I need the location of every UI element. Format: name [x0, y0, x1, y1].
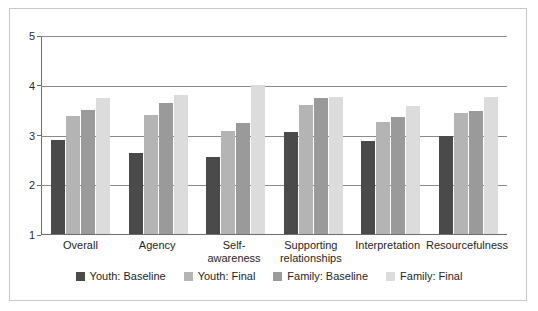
bar — [299, 105, 313, 234]
legend-swatch — [273, 272, 282, 281]
legend-item: Family: Final — [386, 271, 462, 282]
y-tick-label: 2 — [29, 180, 35, 191]
bar-group — [197, 36, 275, 234]
bar — [144, 115, 158, 234]
legend-item: Youth: Baseline — [76, 271, 166, 282]
bar-group — [275, 36, 353, 234]
category-label: Interpretation — [349, 239, 426, 264]
bar-groups — [42, 36, 507, 234]
chart-legend: Youth: BaselineYouth: FinalFamily: Basel… — [10, 271, 528, 282]
x-axis-category-labels: OverallAgencySelf- awarenessSupporting r… — [42, 239, 508, 264]
category-label: Overall — [42, 239, 119, 264]
bar — [454, 113, 468, 234]
bar — [129, 153, 143, 234]
plot-area: 12345 — [41, 36, 507, 235]
bar — [469, 111, 483, 234]
bar — [51, 140, 65, 234]
bar — [251, 85, 265, 234]
bar — [329, 97, 343, 234]
bar — [391, 117, 405, 234]
y-tick-label: 4 — [29, 80, 35, 91]
y-tick-label: 3 — [29, 130, 35, 141]
legend-label: Youth: Baseline — [90, 271, 166, 282]
y-tick-mark — [37, 185, 41, 186]
bar-group — [120, 36, 198, 234]
legend-item: Youth: Final — [184, 271, 256, 282]
category-label: Supporting relationships — [272, 239, 349, 264]
legend-label: Youth: Final — [198, 271, 256, 282]
bar — [314, 98, 328, 234]
y-tick-mark — [37, 235, 41, 236]
y-tick-label: 5 — [29, 31, 35, 42]
bar — [236, 123, 250, 234]
legend-swatch — [76, 272, 85, 281]
bar — [439, 136, 453, 235]
bar — [206, 157, 220, 234]
bar — [96, 98, 110, 234]
bar — [406, 106, 420, 234]
bar — [484, 97, 498, 234]
bar — [376, 122, 390, 234]
bar — [284, 132, 298, 234]
bar — [66, 116, 80, 234]
bar — [221, 131, 235, 234]
chart-figure: 12345 OverallAgencySelf- awarenessSuppor… — [9, 8, 527, 301]
bar — [361, 141, 375, 234]
bar-group — [42, 36, 120, 234]
legend-swatch — [386, 272, 395, 281]
bar — [159, 103, 173, 234]
category-label: Resourcefulness — [426, 239, 508, 264]
legend-item: Family: Baseline — [273, 271, 368, 282]
y-tick-mark — [37, 135, 41, 136]
legend-swatch — [184, 272, 193, 281]
bar — [174, 95, 188, 234]
y-tick-mark — [37, 36, 41, 37]
bar-group — [430, 36, 508, 234]
x-axis-line — [41, 234, 507, 235]
category-label: Self- awareness — [196, 239, 273, 264]
y-tick-mark — [37, 85, 41, 86]
category-label: Agency — [119, 239, 196, 264]
legend-label: Family: Baseline — [287, 271, 368, 282]
y-tick-label: 1 — [29, 230, 35, 241]
legend-label: Family: Final — [400, 271, 462, 282]
bar — [81, 110, 95, 234]
bar-group — [352, 36, 430, 234]
